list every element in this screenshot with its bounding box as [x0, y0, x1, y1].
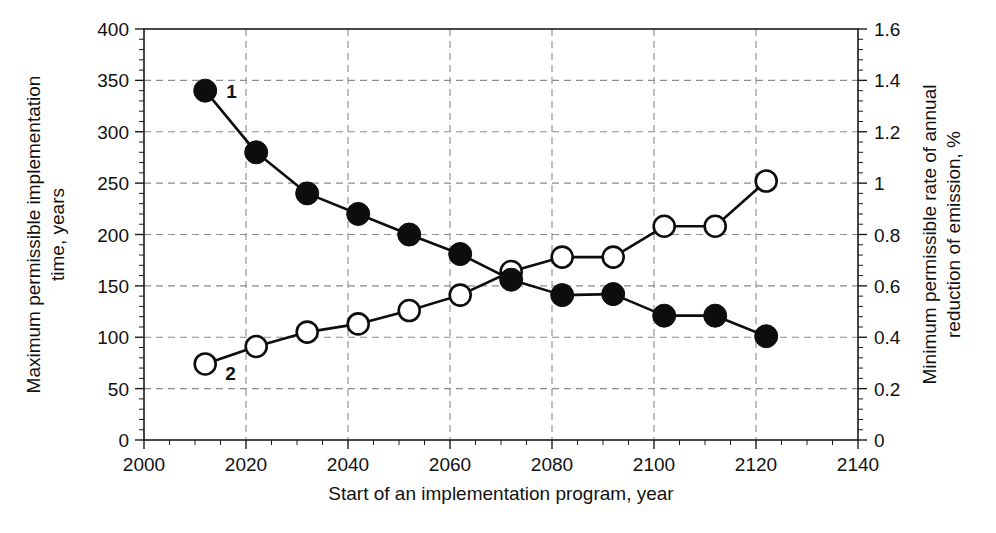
y2-axis-title-line2: reduction of emission, % — [943, 131, 964, 338]
series-2-marker[interactable] — [552, 247, 573, 268]
y2-axis-tick-label: 1.6 — [874, 19, 900, 40]
y-axis-tick-label: 150 — [97, 276, 129, 297]
series-1-marker[interactable] — [398, 223, 421, 246]
series-1-marker[interactable] — [449, 243, 472, 266]
y-axis-tick-label: 0 — [118, 430, 129, 451]
series-2-annotation: 2 — [225, 363, 236, 384]
y2-axis-tick-label: 1 — [874, 173, 885, 194]
series-2-marker[interactable] — [705, 216, 726, 237]
series-2-marker[interactable] — [399, 300, 420, 321]
y2-axis-tick-label: 0.8 — [874, 225, 900, 246]
x-axis-title: Start of an implementation program, year — [328, 483, 674, 504]
y2-axis-tick-label: 0 — [874, 430, 885, 451]
series-1-marker[interactable] — [551, 284, 574, 307]
series-1-marker[interactable] — [653, 304, 676, 327]
series-1-marker[interactable] — [602, 283, 625, 306]
x-axis-tick-label: 2100 — [633, 454, 675, 475]
y2-axis-tick-label: 0.2 — [874, 379, 900, 400]
series-1-marker[interactable] — [755, 325, 778, 348]
series-1-marker[interactable] — [245, 141, 268, 164]
series-1-marker[interactable] — [296, 182, 319, 205]
x-axis-tick-label: 2120 — [735, 454, 777, 475]
chart-canvas: 05010015020025030035040000.20.40.60.811.… — [0, 0, 996, 533]
y2-axis-tick-label: 0.4 — [874, 327, 901, 348]
series-1-marker[interactable] — [347, 202, 370, 225]
series-1-marker[interactable] — [704, 304, 727, 327]
series-2-marker[interactable] — [195, 353, 216, 374]
series-2-marker[interactable] — [297, 322, 318, 343]
y-axis-tick-label: 300 — [97, 122, 129, 143]
series-1-marker[interactable] — [500, 268, 523, 291]
series-2-marker[interactable] — [654, 216, 675, 237]
series-2-marker[interactable] — [246, 336, 267, 357]
axis-ticks — [135, 29, 867, 449]
series-1-line — [205, 91, 766, 337]
x-axis-tick-label: 2040 — [327, 454, 369, 475]
x-axis-tick-label: 2060 — [429, 454, 471, 475]
chart-figure: 05010015020025030035040000.20.40.60.811.… — [0, 0, 996, 533]
gridlines — [144, 29, 858, 440]
x-axis-tick-label: 2080 — [531, 454, 573, 475]
y2-axis-title-line1: Minimum permissible rate of annual — [919, 85, 940, 385]
x-axis-tick-label: 2000 — [123, 454, 165, 475]
series-2-marker[interactable] — [603, 247, 624, 268]
series-2-marker[interactable] — [756, 171, 777, 192]
y2-axis-tick-label: 0.6 — [874, 276, 900, 297]
y-axis-tick-label: 200 — [97, 225, 129, 246]
series-1-marker[interactable] — [194, 79, 217, 102]
y-axis-title-line2: time, years — [47, 188, 68, 281]
y2-axis-tick-label: 1.2 — [874, 122, 900, 143]
y-axis-tick-label: 100 — [97, 327, 129, 348]
series-2-marker[interactable] — [450, 285, 471, 306]
series-2-group — [195, 171, 777, 375]
y-axis-tick-label: 50 — [108, 379, 129, 400]
x-axis-tick-label: 2020 — [225, 454, 267, 475]
y-axis-tick-label: 350 — [97, 70, 129, 91]
series-1-annotation: 1 — [226, 81, 237, 102]
y-axis-tick-label: 400 — [97, 19, 129, 40]
series-1-group — [194, 79, 778, 348]
y2-axis-tick-label: 1.4 — [874, 70, 901, 91]
series-2-line — [205, 181, 766, 364]
y-axis-title-line1: Maximum permissible implementation — [23, 76, 44, 394]
series-2-marker[interactable] — [348, 313, 369, 334]
x-axis-tick-label: 2140 — [837, 454, 879, 475]
y-axis-tick-label: 250 — [97, 173, 129, 194]
